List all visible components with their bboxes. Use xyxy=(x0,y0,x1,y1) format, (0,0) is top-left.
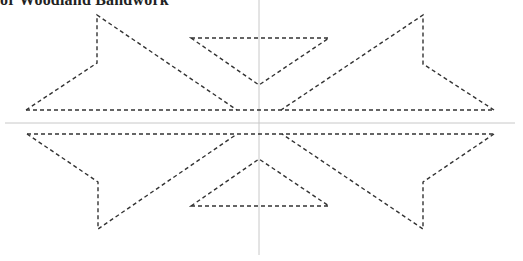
upper-right-shape xyxy=(281,15,494,110)
lower-left-shape xyxy=(27,134,237,229)
upper-left-shape xyxy=(26,15,237,110)
bandwork-diagram xyxy=(0,0,523,261)
lower-right-shape xyxy=(282,134,494,229)
upper-center-triangle xyxy=(191,38,329,85)
lower-center-triangle xyxy=(191,159,329,206)
